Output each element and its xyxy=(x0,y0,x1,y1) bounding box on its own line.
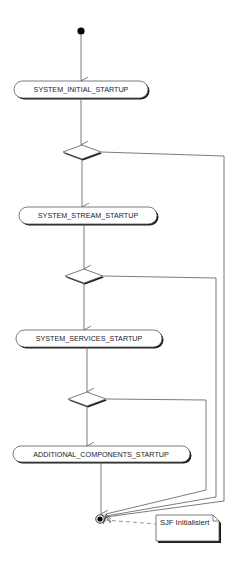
action-additional-components-startup[interactable]: ADDITIONAL_COMPONENTS_STARTUP xyxy=(13,446,192,464)
decision-3[interactable] xyxy=(68,392,107,408)
action-system-stream-startup[interactable]: SYSTEM_STREAM_STARTUP xyxy=(19,207,159,226)
action-label: SYSTEM_STREAM_STARTUP xyxy=(38,211,139,220)
action-label: SYSTEM_SERVICES_STARTUP xyxy=(36,334,143,343)
action-system-services-startup[interactable]: SYSTEM_SERVICES_STARTUP xyxy=(16,330,164,349)
final-node[interactable] xyxy=(96,515,104,523)
flow-decision2-bypass xyxy=(103,276,216,516)
start-node[interactable] xyxy=(77,27,84,34)
decision-1[interactable] xyxy=(63,145,102,161)
note-text: SJF Initialisiert xyxy=(160,518,210,527)
note-sjf-initialisiert[interactable]: SJF Initialisiert xyxy=(156,515,221,543)
activity-diagram: SYSTEM_INITIAL_STARTUP SYSTEM_STREAM_STA… xyxy=(0,0,238,563)
note-anchor-line xyxy=(105,520,156,524)
action-system-initial-startup[interactable]: SYSTEM_INITIAL_STARTUP xyxy=(14,81,150,100)
action-label: ADDITIONAL_COMPONENTS_STARTUP xyxy=(33,450,169,459)
decision-2[interactable] xyxy=(65,269,104,285)
action-label: SYSTEM_INITIAL_STARTUP xyxy=(34,85,129,94)
